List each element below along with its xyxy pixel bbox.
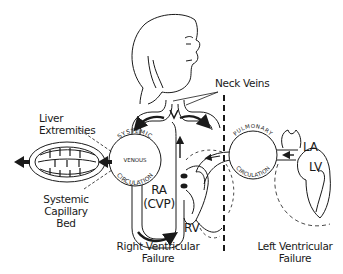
liver-label: Liver: [39, 112, 63, 124]
cvp-label: (CVP): [137, 197, 181, 211]
right-heart: [184, 166, 208, 224]
systemic-capillary-bed-label: Systemic Capillary Bed: [36, 193, 96, 229]
systemic-bed-line3: Bed: [36, 217, 96, 229]
head-outline: [132, 14, 200, 104]
heart-failure-diagram: SYSTEMIC VENOUS CIRCULATION: [0, 0, 343, 274]
left-ventricular-failure-label: Left Ventricular Failure: [245, 240, 343, 264]
systemic-bed-line2: Capillary: [36, 205, 96, 217]
right-ventricular-failure-label: Right Ventricular Failure: [108, 240, 208, 264]
neck-veins-leaders: [173, 92, 218, 105]
neck-v-junction: [170, 110, 178, 118]
svg-text:VENOUS: VENOUS: [123, 157, 147, 163]
left-failure-line1: Left Ventricular: [245, 240, 343, 252]
extremities-label: Extremities: [39, 124, 95, 136]
diagram-drawing: SYSTEMIC VENOUS CIRCULATION: [0, 0, 343, 274]
lv-label: LV: [309, 160, 322, 174]
pulmonary-circulation-circle: PULMONARY CIRCULATION: [229, 123, 277, 179]
right-failure-line1: Right Ventricular: [108, 240, 208, 252]
right-failure-line2: Failure: [108, 252, 208, 264]
la-label: LA: [303, 140, 318, 154]
left-failure-line2: Failure: [245, 252, 343, 264]
systemic-bed-line1: Systemic: [36, 193, 96, 205]
systemic-capillary-bed: [29, 142, 105, 182]
rv-label: RV: [184, 221, 199, 235]
tricuspid-valve: [181, 174, 188, 189]
systemic-venous-circle: SYSTEMIC VENOUS CIRCULATION: [109, 127, 161, 186]
ra-label: RA: [144, 183, 174, 197]
neck-veins-label: Neck Veins: [215, 77, 269, 89]
